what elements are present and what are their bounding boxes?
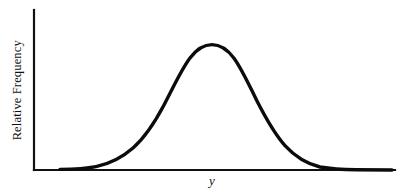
relative-frequency-plot — [0, 0, 410, 193]
bell-curve-path — [60, 45, 392, 170]
figure-container: Relative Frequency y — [0, 0, 410, 193]
